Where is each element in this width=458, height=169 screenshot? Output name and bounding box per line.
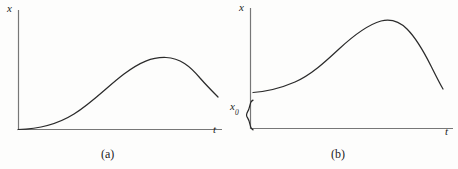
curve-a xyxy=(18,57,218,129)
x-axis-label-a: t xyxy=(213,124,216,135)
initial-value-label-b: x0 xyxy=(230,101,239,115)
x0-brace-b xyxy=(247,100,253,129)
y-axis-label-a: x xyxy=(7,3,12,14)
panel-caption-b: (b) xyxy=(331,148,345,160)
panel-caption-a: (a) xyxy=(101,148,114,160)
chart-panel-a: x t (a) xyxy=(0,0,229,169)
initial-value-subscript: 0 xyxy=(235,108,239,117)
y-axis-label-b: x xyxy=(239,2,244,13)
figure-container: x t (a) x t x0 (b) xyxy=(0,0,458,169)
x-axis-label-b: t xyxy=(445,126,448,137)
panel-b-plot xyxy=(229,0,458,169)
panel-a-plot xyxy=(0,0,229,169)
chart-panel-b: x t x0 (b) xyxy=(229,0,458,169)
curve-b xyxy=(253,20,443,92)
